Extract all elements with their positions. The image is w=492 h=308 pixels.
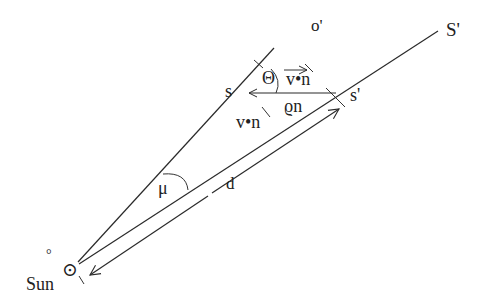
sun-to-S-prime-line: [79, 31, 438, 264]
label-s-prime: s': [350, 85, 360, 105]
label-o-prime: o': [311, 16, 323, 35]
label-sun: Sun: [26, 274, 54, 294]
label-mu: μ: [158, 178, 168, 198]
tick-s-lower: [262, 107, 270, 117]
label-v-dot-n-top: v•n: [286, 69, 310, 89]
tick-sun: [79, 276, 84, 284]
label-S-prime: S': [446, 19, 460, 40]
d-distance-arrow-lower: [90, 196, 208, 275]
sun-parallax-diagram: o' S' s s' Θ v•n ϱn v•n μ d ° ⊙ Sun: [0, 0, 492, 308]
sun-to-o-prime-line: [78, 48, 274, 262]
label-s: s: [225, 81, 232, 101]
label-v-dot-n-side: v•n: [236, 112, 260, 132]
tick-s-prime: [326, 88, 345, 107]
sun-symbol-icon: ⊙: [62, 259, 78, 280]
label-d: d: [226, 174, 235, 193]
label-rho-n: ϱn: [284, 96, 302, 116]
label-theta: Θ: [262, 68, 275, 88]
label-degree: °: [46, 247, 52, 262]
